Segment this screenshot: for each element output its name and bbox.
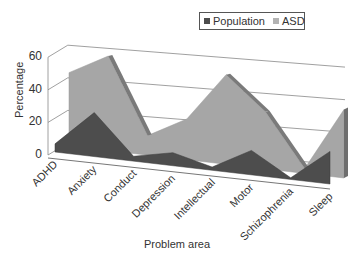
y-tick-label: 20 <box>20 114 42 128</box>
population-swatch-icon <box>204 18 210 24</box>
asd-swatch-icon <box>273 18 279 24</box>
y-tick-label: 40 <box>20 82 42 96</box>
legend: Population ASD <box>199 12 305 30</box>
area-chart-3d <box>0 0 359 265</box>
series-asd <box>69 55 348 178</box>
legend-label-population: Population <box>213 15 265 27</box>
x-axis-title: Problem area <box>144 238 210 250</box>
legend-item-population: Population <box>204 15 265 27</box>
legend-item-asd: ASD <box>273 15 305 27</box>
y-tick-label: 0 <box>20 147 42 161</box>
y-tick-label: 60 <box>20 49 42 63</box>
legend-label-asd: ASD <box>282 15 305 27</box>
